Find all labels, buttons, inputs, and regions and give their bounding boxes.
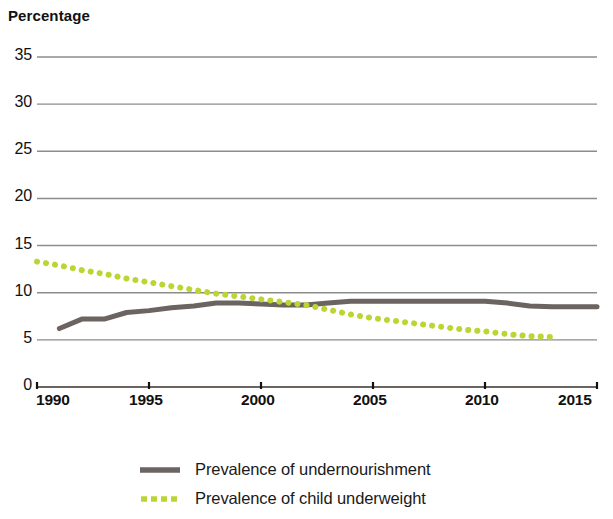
y-tick-label-10: 10: [4, 282, 32, 300]
x-tick-label-2010: 2010: [465, 391, 499, 409]
y-tick-label-0: 0: [4, 376, 32, 394]
chart-canvas: [0, 0, 613, 400]
dotted-line-swatch: [139, 490, 181, 508]
legend-label-undernourishment: Prevalence of undernourishment: [195, 460, 430, 479]
x-tick-label-2000: 2000: [241, 391, 275, 409]
x-tick-label-1995: 1995: [129, 391, 163, 409]
y-tick-label-15: 15: [4, 235, 32, 253]
legend-label-child-underweight: Prevalence of child underweight: [195, 489, 426, 508]
y-tick-label-30: 30: [4, 93, 32, 111]
gridlines-group: [37, 57, 597, 340]
solid-line-swatch: [139, 461, 181, 479]
legend-item-undernourishment[interactable]: Prevalence of undernourishment: [139, 455, 609, 484]
x-axis-ticks-group: [37, 382, 597, 389]
chart-legend: Prevalence of undernourishment Prevalenc…: [139, 455, 609, 513]
x-tick-label-2015: 2015: [558, 391, 592, 409]
plot-area: [0, 0, 613, 400]
y-tick-label-25: 25: [4, 140, 32, 158]
data-series-group: [37, 262, 597, 337]
x-tick-label-2005: 2005: [353, 391, 387, 409]
y-tick-label-20: 20: [4, 187, 32, 205]
legend-item-child-underweight[interactable]: Prevalence of child underweight: [139, 484, 609, 513]
y-tick-label-5: 5: [4, 329, 32, 347]
y-tick-label-35: 35: [4, 46, 32, 64]
x-tick-label-1990: 1990: [36, 391, 70, 409]
chart-figure: Percentage 35302520151050 19901995200020…: [0, 0, 613, 519]
series-line-undernourishment: [59, 301, 597, 328]
